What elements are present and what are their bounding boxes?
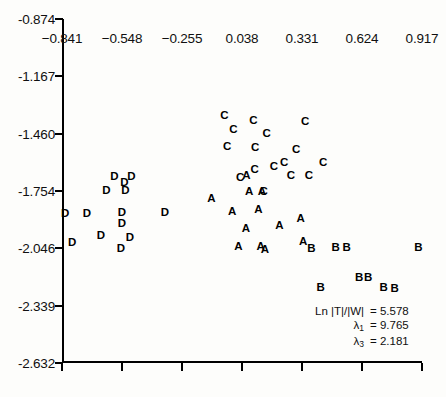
data-point-a: A	[242, 223, 250, 235]
x-tick-label: −0.548	[102, 31, 142, 46]
data-point-c: C	[305, 170, 313, 182]
data-point-b: B	[316, 283, 324, 295]
y-tick-mark	[55, 190, 63, 192]
x-tick-mark	[241, 363, 243, 371]
y-tick-label: -0.874	[18, 12, 55, 27]
data-point-c: C	[236, 172, 244, 184]
annotation-value: = 5.578	[364, 305, 422, 317]
data-point-d: D	[161, 207, 169, 219]
data-point-d: D	[97, 230, 105, 242]
data-point-d: D	[118, 218, 126, 230]
annotation-symbol: Ln |T|/|W|	[315, 305, 364, 317]
x-tick-label: 0.624	[346, 31, 379, 46]
data-point-a: A	[275, 220, 283, 232]
y-tick-mark	[55, 18, 63, 20]
x-tick-mark	[301, 363, 303, 371]
data-point-c: C	[260, 187, 268, 199]
x-tick-mark	[421, 363, 423, 371]
data-point-a: A	[297, 213, 305, 225]
annotation-value: = 9.765	[364, 319, 422, 331]
annotation-value: = 2.181	[364, 335, 422, 347]
data-point-b: B	[355, 272, 363, 284]
data-point-a: A	[207, 193, 215, 205]
data-point-b: B	[380, 283, 388, 295]
x-tick-mark	[361, 363, 363, 371]
data-point-c: C	[220, 110, 228, 122]
y-tick-mark	[55, 305, 63, 307]
annotation-row: Ln |T|/|W|= 5.578	[315, 305, 422, 317]
x-tick-label: 0.331	[286, 31, 319, 46]
y-tick-mark	[55, 247, 63, 249]
data-point-d: D	[102, 186, 110, 198]
data-point-a: A	[261, 244, 269, 256]
scatter-plot-figure: -0.874-1.167-1.460-1.754-2.046-2.339-2.6…	[0, 0, 446, 397]
data-point-b: B	[414, 242, 422, 254]
y-tick-mark	[55, 133, 63, 135]
x-tick-label: −0.841	[42, 31, 82, 46]
data-point-a: A	[254, 204, 262, 216]
x-tick-label: 0.917	[406, 31, 439, 46]
data-point-c: C	[251, 164, 259, 176]
data-point-a: A	[228, 206, 236, 218]
data-point-a: A	[245, 186, 253, 198]
data-point-c: C	[301, 116, 309, 128]
y-tick-label: -1.754	[18, 184, 55, 199]
x-tick-mark	[61, 363, 63, 371]
y-tick-label: -1.460	[18, 126, 55, 141]
data-point-d: D	[126, 232, 134, 244]
y-tick-label: -1.167	[18, 69, 55, 84]
data-point-d: D	[61, 208, 69, 220]
data-point-c: C	[287, 170, 295, 182]
data-point-c: C	[270, 162, 278, 174]
data-point-d: D	[68, 237, 76, 249]
data-point-b: B	[307, 243, 315, 255]
x-tick-mark	[181, 363, 183, 371]
data-point-c: C	[229, 124, 237, 136]
annotation-symbol: λ1	[354, 319, 364, 333]
annotation-row: λ3= 2.181	[315, 335, 422, 349]
annotation-block: Ln |T|/|W|= 5.578λ1= 9.765λ3= 2.181	[315, 305, 422, 352]
data-point-c: C	[280, 158, 288, 170]
data-point-b: B	[364, 272, 372, 284]
data-point-c: C	[251, 142, 259, 154]
data-point-d: D	[83, 208, 91, 220]
data-point-d: D	[117, 243, 125, 255]
data-point-a: A	[234, 241, 242, 253]
x-tick-label: 0.038	[226, 31, 259, 46]
data-point-d: D	[110, 171, 118, 183]
x-tick-mark	[121, 363, 123, 371]
annotation-symbol: λ3	[354, 335, 364, 349]
annotation-row: λ1= 9.765	[315, 319, 422, 333]
y-tick-label: -2.339	[18, 298, 55, 313]
data-point-b: B	[331, 242, 339, 254]
y-tick-label: -2.046	[18, 241, 55, 256]
data-point-c: C	[249, 115, 257, 127]
data-point-c: C	[319, 158, 327, 170]
x-tick-label: −0.255	[162, 31, 202, 46]
y-tick-label: -2.632	[18, 356, 55, 371]
data-point-d: D	[121, 186, 129, 198]
data-point-b: B	[390, 283, 398, 295]
data-point-c: C	[292, 144, 300, 156]
data-point-d: D	[127, 171, 135, 183]
data-point-c: C	[223, 141, 231, 153]
y-tick-mark	[55, 75, 63, 77]
data-point-a: A	[299, 237, 307, 249]
data-point-b: B	[342, 242, 350, 254]
data-point-c: C	[262, 128, 270, 140]
